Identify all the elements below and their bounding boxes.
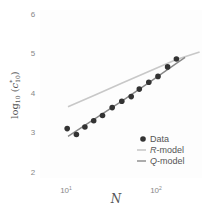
data-point [165,64,171,70]
y-label-sub: 10 [14,95,21,103]
legend-q-model-label: Q-model [150,156,185,166]
y-tick-3: 3 [31,128,36,137]
data-point [74,132,80,138]
y-tick-5: 5 [31,49,36,58]
data-point [109,105,115,111]
svg-text:log10 (c*10): log10 (c*10) [8,71,21,119]
data-point [174,56,180,62]
legend-data-marker [140,136,146,142]
x-tick-10-2: 102 [150,185,162,195]
y-axis-label: log10 (c*10) [8,71,21,119]
y-label-log: log [9,103,20,119]
data-point [64,126,70,132]
data-point [155,74,161,80]
data-point [100,113,106,119]
y-axis: 6 5 4 3 2 [31,10,36,177]
data-point [146,80,152,86]
chart: 6 5 4 3 2 log10 (c*10) 101 102 N Data R-… [0,0,209,208]
x-axis-label: N [110,192,122,206]
x-axis: 101 102 N [60,185,162,206]
data-point [91,118,97,124]
data-point [137,86,143,92]
data-point [82,124,88,130]
x-tick-10-1: 101 [60,185,72,195]
data-point [119,99,125,105]
legend-r-model-label: R-model [150,145,184,155]
y-tick-4: 4 [31,89,36,98]
data-point [128,94,134,100]
y-label-sub2: 10 [14,75,21,83]
legend-data-label: Data [150,134,169,144]
y-tick-2: 2 [31,168,36,177]
y-tick-6: 6 [31,10,36,19]
